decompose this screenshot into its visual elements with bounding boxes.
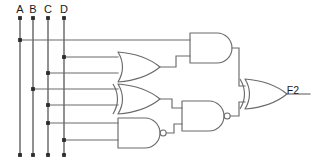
junction-dot-d-140 xyxy=(62,138,66,142)
junction-dot-c-155 xyxy=(46,153,50,157)
or-gate-1 xyxy=(118,52,160,82)
xor-gate-1 xyxy=(113,84,160,114)
input-label-a: A xyxy=(16,3,24,15)
junction-dot-a-155 xyxy=(18,153,22,157)
junction-dot-d-18 xyxy=(62,16,66,20)
junction-dot-d-57 xyxy=(62,55,66,59)
logic-circuit-svg: ABCDF2 xyxy=(0,0,317,167)
wire-or1-to-and1-in2 xyxy=(160,56,190,67)
junction-dot-a-18 xyxy=(18,16,22,20)
xor-gate-2-xor-arc xyxy=(240,79,245,109)
junction-dot-c-123 xyxy=(46,121,50,125)
input-bus-layer xyxy=(20,18,64,155)
junction-dot-b-89 xyxy=(31,87,35,91)
or-gate-1-body xyxy=(118,52,160,82)
xor-gate-2 xyxy=(240,79,287,109)
circuit-diagram-canvas: ABCDF2 xyxy=(0,0,317,167)
wire-xor1-to-nand2 xyxy=(160,99,182,108)
junction-layer xyxy=(18,16,66,157)
junction-dot-c-18 xyxy=(46,16,50,20)
input-label-d: D xyxy=(60,3,68,15)
and-gate-1-body xyxy=(190,33,232,63)
wire-nand1-to-nand2 xyxy=(165,124,182,133)
nand-gate-2-body xyxy=(182,101,224,131)
junction-dot-c-105 xyxy=(46,103,50,107)
wire-and1-to-xor2 xyxy=(232,48,245,86)
nand-gate-2 xyxy=(182,101,230,131)
junction-dot-a-40 xyxy=(18,38,22,42)
junction-dot-d-155 xyxy=(62,153,66,157)
nand-gate-2-inversion-bubble xyxy=(224,113,230,119)
nand-gate-1 xyxy=(118,118,166,148)
label-layer: ABCDF2 xyxy=(16,3,299,96)
nand-gate-1-body xyxy=(118,118,160,148)
output-label-f2: F2 xyxy=(287,84,299,96)
gate-layer xyxy=(113,33,287,148)
nand-gate-1-inversion-bubble xyxy=(160,130,166,136)
input-label-b: B xyxy=(29,3,36,15)
xor-gate-2-body xyxy=(245,79,287,109)
input-label-c: C xyxy=(44,3,52,15)
junction-dot-b-155 xyxy=(31,153,35,157)
xor-gate-1-body xyxy=(118,84,160,114)
junction-dot-b-18 xyxy=(31,16,35,20)
junction-dot-c-73 xyxy=(46,71,50,75)
and-gate-1 xyxy=(190,33,232,63)
